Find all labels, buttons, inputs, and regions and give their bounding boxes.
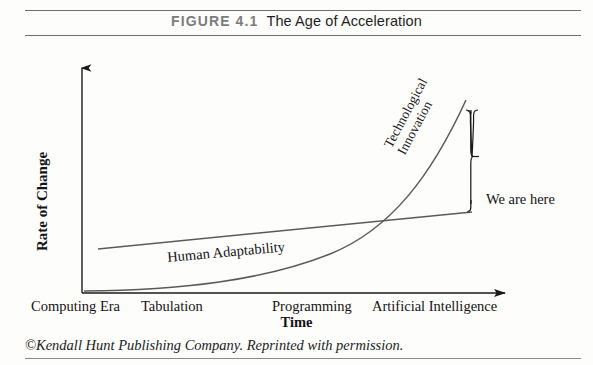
figure-number: FIGURE 4.1 [171, 13, 258, 29]
y-axis-label: Rate of Change [34, 142, 51, 262]
header-rule-bottom [25, 35, 581, 36]
brace-icon [466, 110, 478, 157]
annotation-we-are-here: We are here [486, 191, 555, 208]
figure-title-text: The Age of Acceleration [266, 13, 421, 29]
x-tick-label-programming: Programming [272, 298, 352, 315]
chart-canvas: Rate of Change Human Adaptability Techno… [0, 40, 593, 315]
brace-outline-icon [468, 111, 474, 212]
header-rule-top [25, 10, 581, 11]
x-tick-label-tabulation: Tabulation [141, 298, 203, 315]
chart-svg [0, 40, 593, 315]
series-line-human-adaptability [98, 212, 472, 249]
x-axis-label: Time [0, 314, 593, 331]
x-tick-label-computing-era: Computing Era [31, 298, 120, 315]
copyright-credit: ©Kendall Hunt Publishing Company. Reprin… [25, 337, 403, 354]
footer-rule [25, 358, 581, 359]
figure-page: FIGURE 4.1 The Age of Acceleration [0, 0, 593, 365]
x-tick-label-artificial-intelligence: Artificial Intelligence [372, 298, 497, 315]
page-title: FIGURE 4.1 The Age of Acceleration [0, 13, 593, 29]
